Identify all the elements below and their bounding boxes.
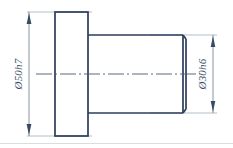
cad-drawing-svg: Ø50h7 Ø30h6	[0, 0, 233, 148]
dimension-label-shaft-diameter: Ø30h6	[196, 58, 208, 90]
dimension-label-flange-diameter: Ø50h7	[12, 58, 24, 90]
technical-drawing-canvas: Ø50h7 Ø30h6	[0, 0, 233, 148]
